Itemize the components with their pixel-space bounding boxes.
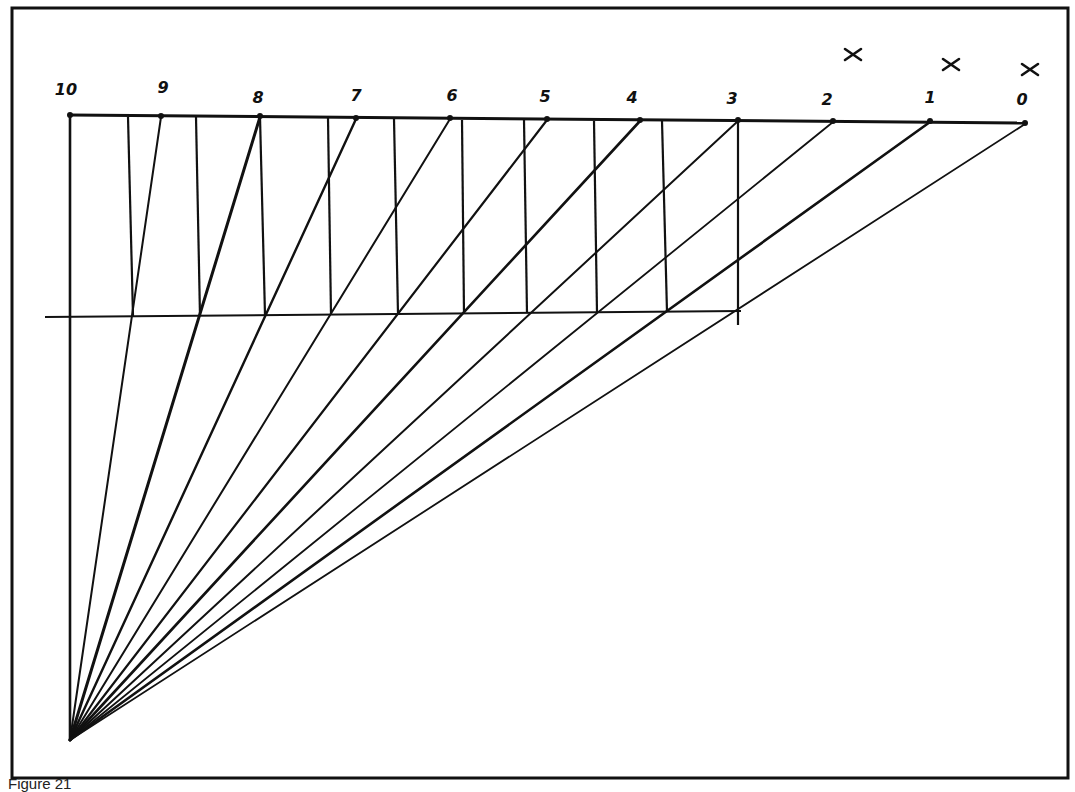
x-mark-icon: [1022, 64, 1038, 75]
ray-to-3: [70, 121, 738, 740]
vertical-line: [128, 117, 133, 316]
vertical-line: [594, 121, 597, 313]
figure-caption: Figure 21: [8, 776, 71, 791]
tick-mark-1: [927, 118, 933, 124]
scale-label-0: 0: [1016, 90, 1027, 109]
radiating-lines: [70, 116, 1025, 740]
scale-label-5: 5: [539, 87, 550, 106]
vertical-line: [462, 120, 464, 314]
tick-mark-6: [447, 115, 453, 121]
vertical-line: [394, 119, 398, 314]
scale-label-1: 1: [924, 88, 935, 107]
vertical-line: [260, 117, 265, 315]
tick-mark-9: [158, 113, 164, 119]
tick-mark-4: [637, 117, 643, 123]
scale-label-7: 7: [350, 86, 362, 105]
x-mark-icon: [845, 49, 861, 60]
scale-labels: 109876543210: [55, 78, 1028, 109]
scale-label-4: 4: [625, 88, 637, 107]
tick-mark-8: [257, 113, 263, 119]
tick-mark-3: [735, 117, 741, 123]
tick-mark-5: [544, 116, 550, 122]
scale-label-8: 8: [252, 88, 263, 107]
scale-label-9: 9: [157, 78, 168, 97]
scale-label-6: 6: [446, 86, 457, 105]
transfer-line: [45, 311, 741, 317]
scale-label-10: 10: [55, 80, 77, 99]
vertical-line: [196, 117, 200, 316]
ray-to-9: [70, 117, 161, 740]
scale-label-3: 3: [726, 89, 737, 108]
tick-mark-2: [830, 118, 836, 124]
tick-mark-10: [67, 112, 73, 118]
vertical-line: [524, 120, 527, 313]
vertical-line: [328, 118, 331, 315]
ray-to-6: [70, 119, 450, 740]
ray-to-2: [70, 122, 833, 740]
ray-to-0: [70, 124, 1025, 740]
tick-mark-7: [353, 115, 359, 121]
x-marks: [845, 49, 1038, 75]
scale-tick-marks: [67, 112, 1028, 126]
ray-to-5: [70, 120, 547, 740]
ray-to-4: [70, 121, 640, 740]
tick-mark-0: [1022, 120, 1028, 126]
scale-label-2: 2: [821, 90, 832, 109]
ray-to-8: [70, 117, 260, 740]
x-mark-icon: [943, 59, 959, 70]
vertical-line: [662, 121, 667, 312]
